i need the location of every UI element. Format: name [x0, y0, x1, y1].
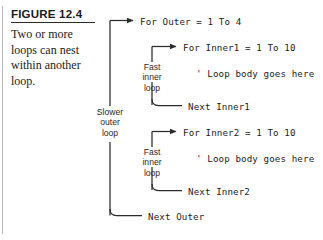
- code-for-inner2: For Inner2 = 1 To 10: [183, 127, 296, 138]
- code-for-inner1: For Inner1 = 1 To 10: [183, 42, 296, 53]
- inner-loop-2-exit-elbow: [152, 184, 182, 191]
- outer-loop-exit-elbow: [110, 209, 142, 216]
- code-next-inner2: Next Inner2: [188, 186, 250, 197]
- nested-loop-diagram: [0, 0, 323, 240]
- figure-page: FIGURE 12.4 Two or more loops can nest w…: [0, 0, 323, 240]
- code-comment-2: ' Loop body goes here: [196, 153, 314, 164]
- code-for-outer: For Outer = 1 To 4: [140, 16, 241, 27]
- code-next-outer: Next Outer: [148, 211, 204, 222]
- outer-loop-annotation: Slower outer loop: [92, 107, 128, 138]
- inner-loop-1-annotation: Fast inner loop: [136, 62, 168, 93]
- code-comment-1: ' Loop body goes here: [196, 68, 314, 79]
- inner-loop-2-annotation: Fast inner loop: [136, 147, 168, 178]
- code-next-inner1: Next Inner1: [188, 101, 250, 112]
- inner-loop-1-exit-elbow: [152, 99, 182, 106]
